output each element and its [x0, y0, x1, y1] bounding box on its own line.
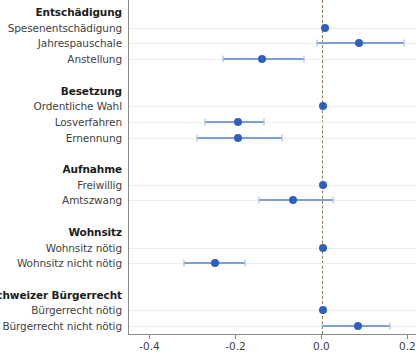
x-axis-tick-label: -0.2 — [225, 340, 246, 352]
point-estimate-marker — [319, 102, 327, 110]
point-estimate-marker — [234, 134, 242, 142]
confidence-interval-cap — [263, 118, 264, 125]
confidence-interval-cap — [204, 118, 205, 125]
row-label: Ernennung — [66, 132, 122, 144]
forest-plot-figure: EntschädigungSpesenentschädigungJahrespa… — [0, 0, 416, 357]
group-label: Aufnahme — [63, 163, 122, 175]
row-label: Bürgerrecht nötig — [31, 304, 122, 316]
point-estimate-marker — [258, 55, 266, 63]
confidence-interval-cap — [222, 56, 223, 63]
confidence-interval-cap — [333, 197, 334, 204]
gridline — [129, 185, 416, 186]
x-axis-tick-label: 0.0 — [313, 340, 330, 352]
x-axis-tick-label: -0.4 — [139, 340, 160, 352]
point-estimate-marker — [321, 24, 329, 32]
row-label-column: EntschädigungSpesenentschädigungJahrespa… — [0, 0, 128, 334]
point-estimate-marker — [319, 181, 327, 189]
gridline — [129, 28, 416, 29]
zero-reference-line — [322, 0, 323, 334]
confidence-interval-cap — [197, 134, 198, 141]
point-estimate-marker — [355, 39, 363, 47]
x-axis-tick — [407, 334, 408, 339]
row-label: Spesenentschädigung — [8, 22, 122, 34]
x-axis-tick-label: 0.2 — [399, 340, 416, 352]
point-estimate-marker — [234, 118, 242, 126]
confidence-interval-cap — [303, 56, 304, 63]
gridline — [129, 263, 416, 264]
group-label: Schweizer Bürgerrecht — [0, 289, 122, 301]
x-axis-tick — [235, 334, 236, 339]
point-estimate-marker — [354, 322, 362, 330]
gridline — [129, 122, 416, 123]
point-estimate-marker — [211, 259, 219, 267]
gridline — [129, 106, 416, 107]
point-estimate-marker — [319, 306, 327, 314]
row-label: Freiwillig — [77, 179, 122, 191]
row-label: Jahrespauschale — [38, 37, 122, 49]
gridline — [129, 310, 416, 311]
row-label: Amtszwang — [62, 194, 122, 206]
confidence-interval-cap — [281, 134, 282, 141]
gridline — [129, 248, 416, 249]
x-axis-tick — [149, 334, 150, 339]
confidence-interval-cap — [184, 260, 185, 267]
group-label: Wohnsitz — [68, 226, 122, 238]
confidence-interval-cap — [259, 197, 260, 204]
point-estimate-marker — [319, 244, 327, 252]
group-label: Entschädigung — [36, 6, 123, 18]
confidence-interval-cap — [322, 323, 323, 330]
row-label: Wohnsitz nicht nötig — [17, 257, 122, 269]
row-label: Wohnsitz nötig — [46, 242, 122, 254]
row-label: Anstellung — [67, 53, 122, 65]
point-estimate-marker — [289, 196, 297, 204]
plot-panel — [128, 0, 416, 334]
x-axis-line — [128, 334, 416, 335]
confidence-interval-cap — [404, 40, 405, 47]
group-label: Besetzung — [61, 85, 122, 97]
x-axis-tick — [321, 334, 322, 339]
confidence-interval-cap — [245, 260, 246, 267]
row-label: Losverfahren — [55, 116, 122, 128]
row-label: Bürgerrecht nicht nötig — [2, 320, 122, 332]
row-label: Ordentliche Wahl — [34, 100, 122, 112]
confidence-interval-cap — [390, 323, 391, 330]
confidence-interval-cap — [317, 40, 318, 47]
